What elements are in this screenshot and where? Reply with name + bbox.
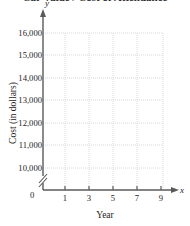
vertical-gridlines [65,33,163,189]
origin-label: 0 [30,190,34,200]
x-tick-label: 5 [106,193,120,203]
y-axis-letter: y [45,0,49,8]
x-tick-label: 9 [154,193,168,203]
x-axis-letter: x [180,185,184,195]
y-tick-label: 16,000 [2,28,42,38]
chart-container: Car Value / Cost of Attendance [0,0,190,226]
horizontal-gridlines [43,33,163,168]
y-axis-title: Cost (in dollars) [8,48,18,178]
x-tick-label: 1 [58,193,72,203]
x-tick-label: 3 [82,193,96,203]
x-axis-title: Year [43,210,167,220]
x-tick-label: 7 [130,193,144,203]
